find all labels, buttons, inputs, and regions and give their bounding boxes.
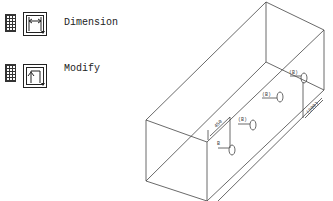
hole-label: B [217, 141, 220, 147]
hole-label: (B) [238, 117, 247, 123]
hole-label: (B) [289, 70, 298, 76]
dimension-label: (300) [305, 101, 320, 116]
isometric-box-drawing: B (B) (B) (B) 450 (300) [0, 0, 333, 201]
hole-label: (B) [262, 92, 271, 98]
